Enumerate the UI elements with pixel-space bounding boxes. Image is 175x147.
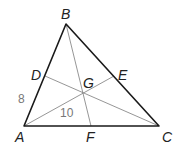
label-E: E <box>118 67 128 83</box>
label-C: C <box>162 129 173 145</box>
label-B: B <box>61 6 70 22</box>
label-D: D <box>31 67 41 83</box>
measure-AG: 10 <box>60 106 74 120</box>
label-G: G <box>83 75 94 91</box>
label-A: A <box>14 129 24 145</box>
label-F: F <box>86 129 96 145</box>
measure-AD: 8 <box>18 92 25 106</box>
triangle-diagram: B A C D E F G 8 10 <box>0 0 175 147</box>
